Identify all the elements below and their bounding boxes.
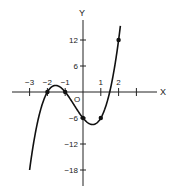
cubic-function-chart: X Y O −3−2−112 126−6−12−18 xyxy=(0,0,175,188)
origin-label: O xyxy=(74,95,80,104)
y-tick-label: −18 xyxy=(64,166,78,175)
x-tick-label: −3 xyxy=(25,78,35,87)
y-axis-label: Y xyxy=(79,8,85,18)
y-tick-label: 12 xyxy=(69,36,78,45)
data-point xyxy=(99,116,103,120)
data-point xyxy=(116,38,120,42)
x-tick-label: 1 xyxy=(99,78,104,87)
x-tick-label: −1 xyxy=(61,78,71,87)
y-tick-label: 6 xyxy=(74,62,79,71)
data-point xyxy=(45,90,49,94)
data-point xyxy=(81,116,85,120)
x-tick-label: −2 xyxy=(43,78,53,87)
y-tick-label: −12 xyxy=(64,140,78,149)
y-tick-label: −6 xyxy=(69,114,79,123)
data-point xyxy=(63,90,67,94)
x-tick-label: 2 xyxy=(116,78,121,87)
x-axis-label: X xyxy=(160,87,166,97)
x-ticks: −3−2−112 xyxy=(25,78,136,96)
